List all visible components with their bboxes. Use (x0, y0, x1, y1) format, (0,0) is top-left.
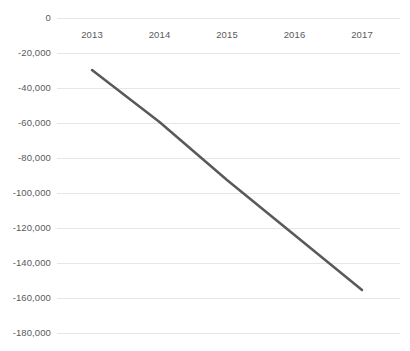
line-chart: 0-20,000-40,000-60,000-80,000-100,000-12… (0, 0, 410, 351)
series-line (92, 70, 362, 290)
plot-area (0, 0, 410, 351)
